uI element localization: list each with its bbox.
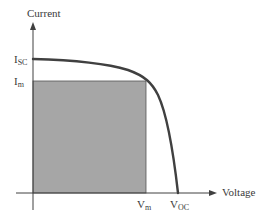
x-axis-label: Voltage [222, 187, 255, 198]
voc-sub: OC [178, 203, 189, 212]
im-sub: m [18, 80, 24, 89]
isc-label: ISC [14, 54, 27, 67]
max-power-rectangle [33, 81, 146, 193]
voc-label: VOC [170, 199, 189, 212]
im-label: Im [14, 76, 24, 89]
x-axis-arrow-icon [209, 190, 217, 196]
voc-main: V [170, 198, 178, 210]
isc-sub: SC [18, 58, 28, 67]
vm-sub: m [145, 203, 151, 212]
y-axis-arrow-icon [30, 22, 36, 30]
y-axis-label: Current [27, 8, 61, 19]
vm-main: V [137, 198, 145, 210]
vm-label: Vm [137, 199, 151, 212]
